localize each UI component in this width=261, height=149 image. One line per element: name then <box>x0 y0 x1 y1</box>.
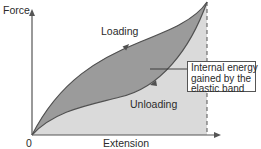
x-axis-label: Extension <box>103 138 149 149</box>
annotation-line-3: elastic band <box>191 84 255 95</box>
unloading-label: Unloading <box>130 99 177 110</box>
y-axis-label: Force <box>3 5 30 16</box>
origin-label: 0 <box>26 138 32 149</box>
annotation-line-1: Internal energy <box>191 63 255 74</box>
x-axis-arrow-icon <box>214 132 221 138</box>
internal-energy-annotation: Internal energy gained by the elastic ba… <box>187 61 256 92</box>
loading-label: Loading <box>101 26 138 37</box>
